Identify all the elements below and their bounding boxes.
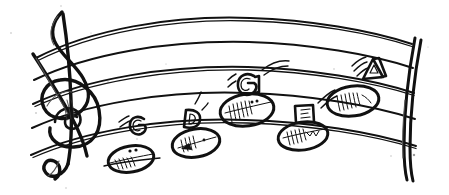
note-2-crossline (178, 137, 216, 148)
speck-10 (427, 46, 428, 47)
staff-line-2 (34, 42, 413, 80)
letter-e-bars (301, 109, 310, 118)
speck-3 (35, 112, 37, 114)
speck-4 (90, 32, 91, 33)
letter-d-inner (189, 114, 195, 124)
staff-line-5 (31, 120, 416, 155)
note-head-2 (170, 125, 222, 161)
note-label-a (352, 57, 386, 79)
letter-g-low-swishes (119, 116, 130, 127)
music-staff-illustration (0, 0, 449, 195)
note-3-crossline (225, 102, 271, 113)
speck-8 (333, 68, 334, 69)
staff-line-1 (36, 18, 412, 58)
speck-2 (60, 5, 61, 6)
treble-clef-echo-4 (36, 58, 68, 114)
speck-7 (165, 63, 166, 64)
note-1-dot-b (134, 148, 137, 151)
speck-6 (136, 138, 137, 139)
note-3-dot-b (256, 100, 259, 103)
note-2-dot (203, 139, 206, 142)
barline-speck (413, 154, 415, 156)
note-1-dot-a (128, 149, 131, 152)
note-5-crossline (362, 95, 371, 103)
speck-5 (107, 81, 108, 82)
letter-d-tick (202, 103, 208, 110)
note-3-dot-a (251, 101, 254, 104)
double-barline-right (403, 38, 421, 181)
speck-1 (10, 32, 11, 33)
drawing-canvas (0, 0, 449, 195)
speck-9 (390, 155, 391, 156)
note-4-hatching (287, 129, 306, 145)
letter-d-glyph (184, 110, 200, 128)
speck-11 (65, 187, 66, 188)
letter-g-high-inner (241, 78, 250, 90)
